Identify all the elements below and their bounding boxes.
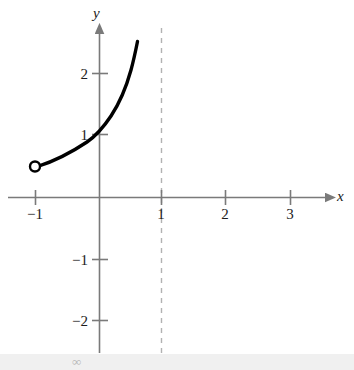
open-circle-endpoint [30, 162, 40, 172]
x-tick-label-2: 2 [221, 207, 229, 222]
y-tick-label-neg2: −2 [72, 314, 88, 329]
x-tick-label-1: 1 [157, 207, 165, 222]
graph-figure: y x −1 1 2 3 2 1 −1 −2 ∞ [0, 0, 354, 370]
x-tick-label-3: 3 [286, 207, 294, 222]
exponential-curve [38, 42, 138, 167]
plot-canvas [0, 0, 354, 370]
bottom-cropped-band: ∞ [0, 354, 354, 370]
y-tick-label-1: 1 [81, 128, 89, 143]
y-axis-label: y [93, 6, 100, 21]
y-tick-label-2: 2 [81, 67, 89, 82]
bottom-text-fragment: ∞ [72, 355, 81, 368]
x-tick-label-neg1: −1 [27, 207, 43, 222]
x-axis-label: x [337, 189, 344, 204]
y-tick-label-neg1: −1 [72, 253, 88, 268]
